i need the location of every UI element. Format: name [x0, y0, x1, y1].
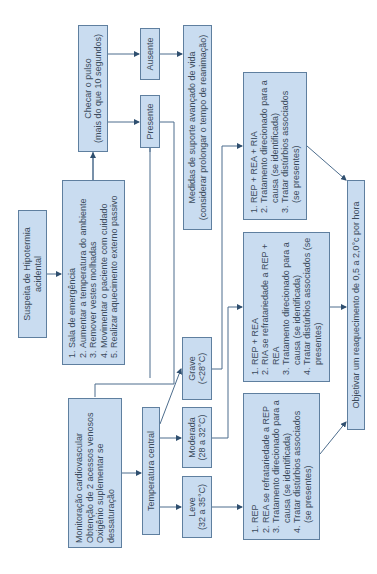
connector-presente-to-monitoracao — [0, 0, 377, 574]
flowchart-canvas: Suspeita de Hipotermia acidental Sala de… — [0, 0, 377, 574]
